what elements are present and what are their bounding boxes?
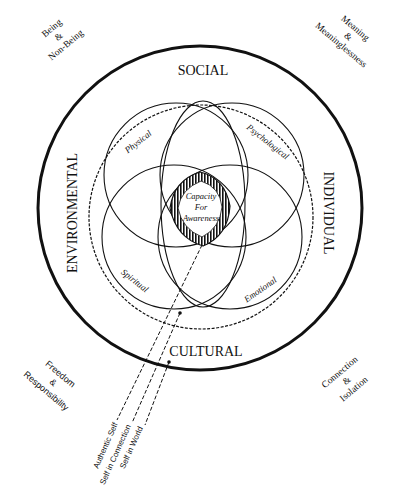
label-social: SOCIAL <box>178 63 229 78</box>
label-emotional: Emotional <box>241 274 279 305</box>
label-cultural: CULTURAL <box>169 344 242 359</box>
label-awareness: Awareness <box>182 213 220 223</box>
label-environmental: ENVIRONMENTAL <box>65 153 80 273</box>
label-for: For <box>194 202 208 212</box>
label-capacity: Capacity <box>186 191 217 201</box>
label-spiritual: Spiritual <box>119 267 150 295</box>
corner-top-right: Meaning & Meaninglessness <box>313 4 383 70</box>
existential-diagram: SOCIAL CULTURAL ENVIRONMENTAL INDIVIDUAL… <box>0 0 400 503</box>
label-individual: INDIVIDUAL <box>321 171 336 254</box>
corner-top-left: Being & Non-Being <box>32 10 85 62</box>
self-line-marker-2 <box>167 360 171 364</box>
label-physical: Physical <box>122 128 154 156</box>
self-line-world <box>145 362 169 425</box>
self-line-marker-1 <box>178 311 182 315</box>
corner-bottom-right: Connection & Isolation <box>320 354 374 407</box>
corner-bottom-left: Freedom & Responsibility <box>22 352 85 413</box>
circle-spiritual <box>102 165 246 309</box>
